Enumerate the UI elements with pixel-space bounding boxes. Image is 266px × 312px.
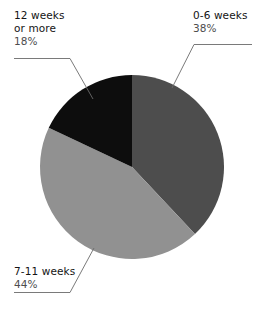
pie-label-0-6-weeks-percent: 38% [193, 22, 248, 35]
pie-chart-figure: 12 weeks or more 18% 0-6 weeks 38% 7-11 … [0, 0, 266, 312]
pie-label-12-weeks-or-more-line1: 12 weeks [14, 9, 65, 22]
pie-label-12-weeks-or-more-line2: or more [14, 22, 65, 35]
leader-line-0-6-weeks [172, 45, 252, 89]
pie-label-7-11-weeks: 7-11 weeks 44% [14, 265, 75, 291]
pie-slices [40, 75, 224, 259]
pie-label-7-11-weeks-percent: 44% [14, 278, 75, 291]
pie-label-7-11-weeks-category: 7-11 weeks [14, 265, 75, 278]
pie-label-12-weeks-or-more: 12 weeks or more 18% [14, 9, 65, 47]
pie-label-0-6-weeks-category: 0-6 weeks [193, 9, 248, 22]
pie-label-12-weeks-or-more-percent: 18% [14, 35, 65, 48]
pie-label-0-6-weeks: 0-6 weeks 38% [193, 9, 248, 35]
